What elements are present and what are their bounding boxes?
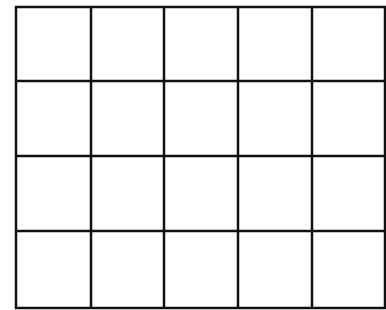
grid-cell [164, 156, 238, 231]
grid-cell [312, 156, 385, 231]
grid-cell [91, 7, 164, 81]
grid-cell [16, 156, 91, 231]
grid-cell [91, 81, 164, 156]
grid-cell [164, 7, 238, 81]
grid-cell [312, 231, 385, 308]
grid-diagram [0, 0, 386, 310]
grid-cell [312, 7, 385, 81]
grid-cell [91, 231, 164, 308]
grid-cell [91, 156, 164, 231]
grid-cell [238, 156, 312, 231]
grid-cell [164, 81, 238, 156]
grid-cell [164, 231, 238, 308]
grid-cell [16, 81, 91, 156]
grid-cell [312, 81, 385, 156]
grid-cell [16, 231, 91, 308]
grid-cell [238, 7, 312, 81]
grid-cell [16, 7, 91, 81]
grid-cell [238, 81, 312, 156]
grid-cell [238, 231, 312, 308]
